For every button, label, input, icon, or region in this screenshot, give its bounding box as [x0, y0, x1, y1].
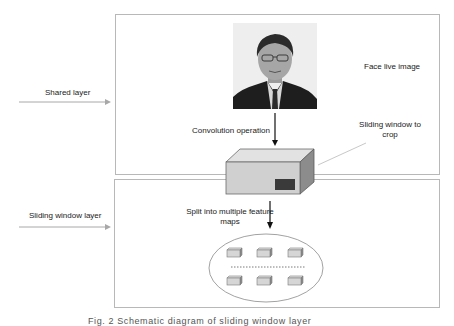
convolution-operation-label: Convolution operation	[192, 126, 270, 136]
face-live-image	[233, 23, 317, 109]
face-live-image-label: Face live image	[364, 62, 420, 72]
sliding-window-to-crop-label: Sliding window to crop	[350, 120, 430, 140]
sliding-window-layer-label: Sliding window layer	[29, 211, 101, 221]
split-label-line-1: Split into multiple feature	[180, 207, 280, 217]
annotation-line-2: crop	[350, 130, 430, 140]
annotation-line-1: Sliding window to	[350, 120, 430, 130]
shared-layer-label: Shared layer	[45, 88, 90, 98]
split-label-line-2: maps	[180, 217, 280, 227]
sliding-window-layer-panel	[114, 179, 440, 308]
figure-caption: Fig. 2 Schematic diagram of sliding wind…	[88, 316, 311, 326]
split-feature-maps-label: Split into multiple feature maps	[180, 207, 280, 227]
face-photo-icon	[233, 23, 317, 109]
